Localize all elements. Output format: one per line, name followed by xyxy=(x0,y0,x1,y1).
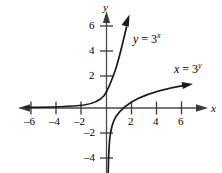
x-tick-label-2: 2 xyxy=(128,116,134,127)
curve1-equation-label: y = 3x xyxy=(133,33,161,45)
x-axis-label: x xyxy=(211,103,216,114)
y-tick-label-neg4: –4 xyxy=(84,152,95,163)
figure-container: –6 –4 –2 2 4 6 6 4 2 –2 –4 x y y = 3x x … xyxy=(0,0,222,173)
curve-y-equals-3-to-the-x xyxy=(26,15,130,108)
curve1-equals: = xyxy=(138,32,151,46)
y-axis-label: y xyxy=(103,2,108,13)
x-axis-right-arrow xyxy=(196,104,208,112)
curve2-arrow xyxy=(182,82,194,89)
x-tick-label-6: 6 xyxy=(178,116,184,127)
curve2-exponent: y xyxy=(198,61,202,70)
curve-x-equals-3-to-the-y xyxy=(108,82,193,173)
y-tick-label-2: 2 xyxy=(89,70,95,81)
x-tick-label-4: 4 xyxy=(153,116,159,127)
x-axis xyxy=(18,104,208,112)
x-tick-label-neg4: –4 xyxy=(49,116,60,127)
curve2-equals: = xyxy=(179,62,192,76)
curve2-equation-label: x = 3y xyxy=(174,63,202,75)
curve1-exponent: x xyxy=(157,31,161,40)
y-tick-label-neg2: –2 xyxy=(84,127,95,138)
curve1-arrow xyxy=(122,15,130,27)
x-tick-label-neg6: –6 xyxy=(24,116,35,127)
y-tick-label-4: 4 xyxy=(89,45,95,56)
y-tick-label-6: 6 xyxy=(89,20,95,31)
graph-canvas xyxy=(0,0,222,173)
